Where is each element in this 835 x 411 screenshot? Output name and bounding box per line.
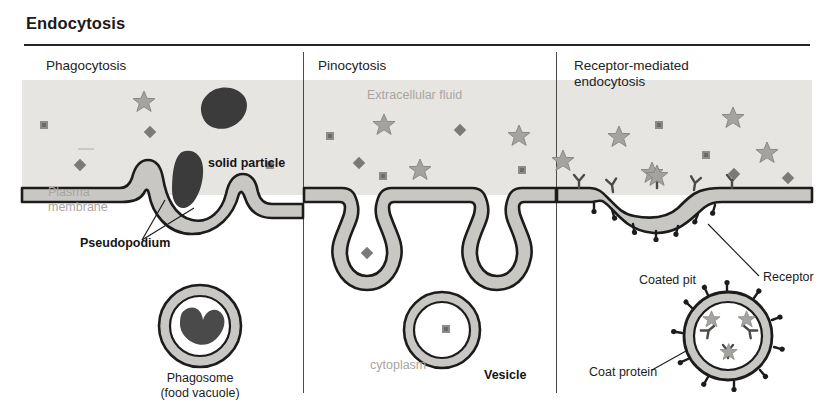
solid-particle-shape: [201, 87, 247, 128]
label-cytoplasm: cytoplasm: [370, 358, 426, 373]
pinocytic-vesicle-shape: [404, 292, 480, 368]
phagosome-shape: [159, 285, 241, 367]
plasma-membrane-pinocytosis: [304, 188, 556, 290]
label-plasma-membrane: Plasma membrane: [48, 185, 108, 215]
label-solid-particle: solid particle: [208, 156, 285, 171]
page-title: Endocytosis: [26, 14, 125, 33]
coated-vesicle-shape: [671, 280, 786, 392]
title-divider-rule: [24, 44, 810, 46]
engulfed-particle: [172, 151, 203, 208]
scan-artifact: [660, 4, 820, 34]
label-coat-protein: Coat protein: [589, 365, 657, 380]
panel-title-receptor-mediated-endocytosis: Receptor-mediated endocytosis: [574, 58, 689, 90]
label-phagosome: Phagosome (food vacuole): [140, 371, 260, 401]
label-vesicle: Vesicle: [484, 368, 526, 383]
label-receptor: Receptor: [763, 270, 814, 285]
solute-in-pinocytic-pit: [361, 247, 373, 259]
panel-container: Phagocytosis Pinocytosis Receptor-mediat…: [22, 48, 812, 393]
endocytosis-figure: Endocytosis: [0, 0, 835, 411]
solute-cluster-pinocytosis: [326, 114, 530, 180]
label-pseudopodium: Pseudopodium: [80, 236, 170, 251]
label-extracellular-fluid: Extracellular fluid: [367, 88, 462, 103]
receptor-leader-line: [708, 224, 759, 276]
panel-title-phagocytosis: Phagocytosis: [46, 58, 126, 74]
label-coated-pit: Coated pit: [639, 273, 696, 288]
solute-cluster-receptor: [552, 107, 794, 184]
panel-title-pinocytosis: Pinocytosis: [318, 58, 386, 74]
